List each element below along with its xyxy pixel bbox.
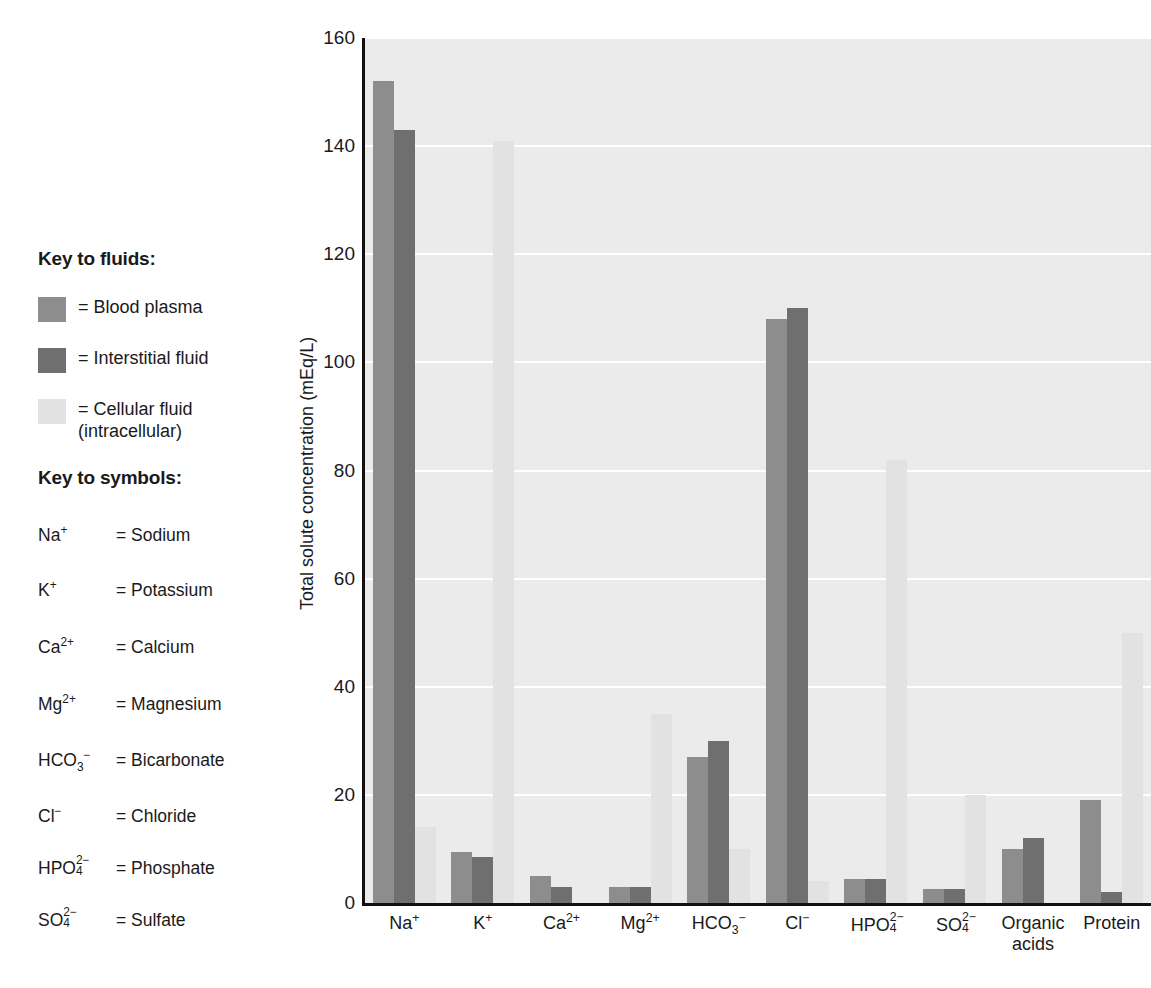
legend-swatch-cellular-fluid [38,399,66,424]
bar-group [994,38,1073,903]
bar-group [522,38,601,903]
legend-item-interstitial-fluid: = Interstitial fluid [38,347,209,373]
symbol-key-row: Mg2+= Magnesium [38,694,278,714]
key-to-fluids-heading: Key to fluids: [38,248,156,270]
legend-item-cellular-fluid: = Cellular fluid (intracellular) [38,398,193,442]
legend-label-cellular-fluid: = Cellular fluid (intracellular) [78,398,193,442]
y-axis-tick-label: 140 [323,135,355,157]
bar-blood-plasma[interactable] [687,757,708,903]
symbol-key-row: K+= Potassium [38,580,278,600]
y-axis-title-text: Total solute concentration (mEq/L) [297,250,318,610]
symbol-definition: = Chloride [116,806,196,826]
bar-interstitial-fluid[interactable] [630,887,651,903]
y-axis-tick-label: 160 [323,27,355,49]
y-axis-tick-label: 60 [334,568,355,590]
bar-groups [365,38,1151,903]
bar-group [679,38,758,903]
bar-blood-plasma[interactable] [923,889,944,903]
bar-interstitial-fluid[interactable] [551,887,572,903]
symbol-key-row: HCO3−= Bicarbonate [38,750,278,770]
bar-interstitial-fluid[interactable] [865,879,886,903]
bar-group [915,38,994,903]
symbol-definition: = Calcium [116,637,194,657]
bar-interstitial-fluid[interactable] [1101,892,1122,903]
bar-cellular-fluid[interactable] [886,460,907,903]
x-axis-tick-label: Protein [1083,913,1140,934]
symbol-key-row: Ca2+= Calcium [38,637,278,657]
bar-cellular-fluid[interactable] [651,714,672,903]
bar-interstitial-fluid[interactable] [472,857,493,903]
symbol-definition: = Potassium [116,580,213,600]
bar-group [601,38,680,903]
legend-item-blood-plasma: = Blood plasma [38,296,203,322]
bar-cellular-fluid[interactable] [808,881,829,903]
bar-cellular-fluid[interactable] [415,827,436,903]
bar-cellular-fluid[interactable] [1122,633,1143,903]
symbol-key-row: Cl−= Chloride [38,806,278,826]
x-axis-tick-label: K+ [473,913,492,934]
y-axis-tick-label: 120 [323,243,355,265]
y-axis-tick-label: 40 [334,676,355,698]
bar-blood-plasma[interactable] [609,887,630,903]
bar-interstitial-fluid[interactable] [394,130,415,903]
x-axis-tick-label: Organicacids [987,913,1079,955]
x-axis-tick-label: Cl− [785,913,809,934]
legend-label-blood-plasma: = Blood plasma [78,296,203,318]
x-axis-tick-label: Mg2+ [621,913,660,934]
bar-blood-plasma[interactable] [766,319,787,903]
x-axis-tick-label: Na+ [389,913,419,934]
plot-region: 020406080100120140160 Na+K+Ca2+Mg2+HCO3−… [362,38,1151,906]
chart-area: Total solute concentration (mEq/L) 02040… [300,0,1151,988]
bar-interstitial-fluid[interactable] [708,741,729,903]
y-axis-tick-label: 20 [334,784,355,806]
symbol-formula: Mg2+ [38,694,116,714]
y-axis-tick-label: 100 [323,351,355,373]
symbol-definition: = Sodium [116,525,190,545]
bar-group [365,38,444,903]
bar-blood-plasma[interactable] [1080,800,1101,903]
symbol-formula: Na+ [38,525,116,545]
symbol-key-row: HPO2−4= Phosphate [38,856,278,878]
bar-interstitial-fluid[interactable] [787,308,808,903]
symbol-key-row: Na+= Sodium [38,525,278,545]
symbol-definition: = Magnesium [116,694,222,714]
bar-blood-plasma[interactable] [844,879,865,903]
symbol-formula: SO2−4 [38,908,116,930]
bar-blood-plasma[interactable] [451,852,472,903]
bar-group [1072,38,1151,903]
key-panel: Key to fluids: = Blood plasma = Intersti… [0,0,300,988]
x-axis-tick-label: SO2−4 [936,913,973,936]
bar-blood-plasma[interactable] [530,876,551,903]
symbol-definition: = Phosphate [116,858,215,878]
symbol-formula: Ca2+ [38,637,116,657]
symbol-formula: HCO3− [38,750,116,770]
y-axis-tick-label: 80 [334,460,355,482]
bar-blood-plasma[interactable] [373,81,394,903]
bar-cellular-fluid[interactable] [729,849,750,903]
bar-interstitial-fluid[interactable] [944,889,965,903]
x-axis-tick-label: HCO3− [692,913,746,934]
symbol-definition: = Bicarbonate [116,750,224,770]
bar-group [837,38,916,903]
bar-group [444,38,523,903]
y-axis-tick-label: 0 [344,892,355,914]
bar-cellular-fluid[interactable] [493,141,514,903]
symbol-definition: = Sulfate [116,910,186,930]
bar-interstitial-fluid[interactable] [1023,838,1044,903]
x-axis-tick-label: Ca2+ [543,913,580,934]
key-to-symbols-heading: Key to symbols: [38,467,182,489]
legend-label-interstitial-fluid: = Interstitial fluid [78,347,209,369]
legend-swatch-blood-plasma [38,297,66,322]
legend-swatch-interstitial-fluid [38,348,66,373]
bar-blood-plasma[interactable] [1002,849,1023,903]
bar-cellular-fluid[interactable] [965,795,986,903]
x-axis-tick-label: HPO2−4 [851,913,901,936]
symbol-formula: K+ [38,580,116,600]
bar-group [758,38,837,903]
symbol-key-row: SO2−4= Sulfate [38,908,278,930]
y-axis-title: Total solute concentration (mEq/L) [297,0,318,300]
symbol-formula: HPO2−4 [38,856,116,878]
symbol-formula: Cl− [38,806,116,826]
